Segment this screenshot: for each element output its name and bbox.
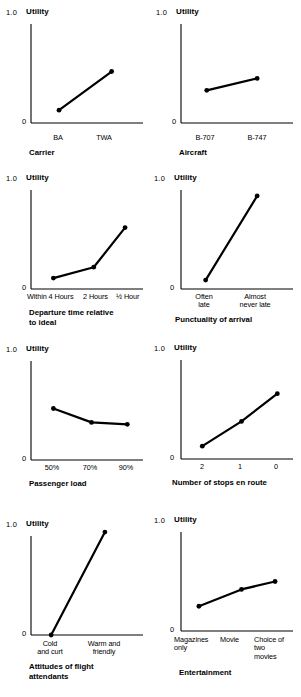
data-point-marker — [255, 76, 260, 81]
utility-curve-line — [199, 582, 275, 607]
panel-caption: Aircraft — [179, 148, 207, 158]
utility-curve-line — [51, 532, 105, 635]
data-point-marker — [239, 587, 244, 592]
data-point-marker — [273, 579, 278, 584]
data-point-marker — [255, 194, 260, 199]
data-point-marker — [49, 633, 54, 638]
plot-area — [0, 0, 151, 192]
x-axis-tick-label: 0 — [267, 463, 285, 471]
utility-chart-panel: 1.0Utility0B-707B-747Aircraft — [150, 0, 301, 165]
x-axis-tick-label: Choice of two movies — [254, 636, 298, 661]
x-axis-tick-label: ½ Hour — [116, 293, 148, 301]
panel-caption: Punctuality of arrival — [175, 315, 252, 325]
utility-curve-line — [206, 196, 258, 280]
x-axis-tick-label: Within 4 Hours — [27, 293, 85, 301]
utility-chart-panel: 1.0Utility0210Number of stops en route — [150, 335, 301, 505]
data-point-marker — [275, 391, 280, 396]
utility-chart-panel: 1.0Utility0Often lateAlmost never latePu… — [150, 165, 301, 335]
x-axis-tick-label: Magazines only — [174, 636, 218, 653]
plot-area — [150, 165, 301, 357]
utility-chart-panel: 1.0Utility0Magazines onlyMovieChoice of … — [150, 505, 301, 697]
plot-area — [150, 335, 301, 527]
plot-area — [0, 335, 151, 527]
panel-caption: Attitudes of flight attendants — [29, 662, 94, 681]
data-point-marker — [91, 265, 96, 270]
utility-curve-line — [59, 72, 112, 111]
data-point-marker — [51, 276, 56, 281]
data-point-marker — [103, 530, 108, 535]
x-axis-tick-label: Movie — [220, 636, 254, 644]
x-axis-tick-label: 2 — [193, 463, 211, 471]
x-axis-tick-label: BA — [35, 134, 81, 142]
data-point-marker — [203, 278, 208, 283]
panel-caption: Entertainment — [179, 668, 231, 678]
utility-chart-panel: 1.0Utility0Within 4 Hours2 Hours½ HourDe… — [0, 165, 150, 335]
x-axis-tick-label: TWA — [81, 134, 127, 142]
x-axis-tick-label: Warm and friendly — [83, 640, 125, 657]
data-point-marker — [89, 420, 94, 425]
utility-curve-line — [53, 228, 125, 278]
data-point-marker — [125, 422, 130, 427]
data-point-marker — [123, 225, 128, 230]
x-axis-tick-label: Almost never late — [232, 293, 278, 310]
data-point-marker — [239, 419, 244, 424]
utility-chart-panel: 1.0Utility0BATWACarrier — [0, 0, 150, 165]
data-point-marker — [197, 604, 202, 609]
panel-caption: Number of stops en route — [172, 478, 267, 488]
utility-chart-panel: 1.0Utility0Cold and curtWarm and friendl… — [0, 505, 150, 697]
panel-caption: Passenger load — [29, 479, 87, 489]
x-axis-tick-label: 70% — [75, 464, 105, 472]
data-point-marker — [204, 88, 209, 93]
x-axis-tick-label: Often late — [181, 293, 227, 310]
data-point-marker — [51, 406, 56, 411]
x-axis-tick-label: 1 — [231, 463, 249, 471]
x-axis-tick-label: B-747 — [234, 134, 280, 142]
x-axis-tick-label: B-707 — [182, 134, 228, 142]
utility-curve-line — [207, 78, 257, 90]
panel-caption: Departure time relative to ideal — [29, 308, 114, 327]
data-point-marker — [57, 108, 62, 113]
panel-caption: Carrier — [29, 148, 55, 158]
plot-area — [0, 165, 151, 357]
utility-chart-panel: 1.0Utility050%70%90%Passenger load — [0, 335, 150, 505]
plot-area — [150, 0, 301, 192]
x-axis-tick-label: 2 Hours — [83, 293, 117, 301]
data-point-marker — [109, 69, 114, 74]
x-axis-tick-label: Cold and curt — [29, 640, 71, 657]
utility-curves-figure: 1.0Utility0BATWACarrier1.0Utility0B-707B… — [0, 0, 301, 697]
x-axis-tick-label: 90% — [111, 464, 141, 472]
x-axis-tick-label: 50% — [37, 464, 67, 472]
data-point-marker — [200, 444, 205, 449]
